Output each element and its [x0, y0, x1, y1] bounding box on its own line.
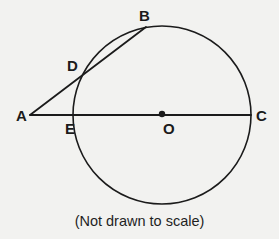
- point-label-a: A: [16, 108, 27, 123]
- geometry-figure: A B C D E O (Not drawn to scale): [0, 0, 279, 239]
- point-label-d: D: [67, 58, 78, 73]
- point-label-e: E: [65, 121, 75, 136]
- point-label-o: O: [163, 121, 175, 136]
- point-label-c: C: [256, 108, 267, 123]
- figure-caption: (Not drawn to scale): [0, 213, 279, 229]
- center-point-dot: [159, 111, 165, 117]
- geometry-canvas: [0, 0, 279, 239]
- point-label-b: B: [139, 8, 150, 23]
- segment-a-to-b: [30, 27, 146, 115]
